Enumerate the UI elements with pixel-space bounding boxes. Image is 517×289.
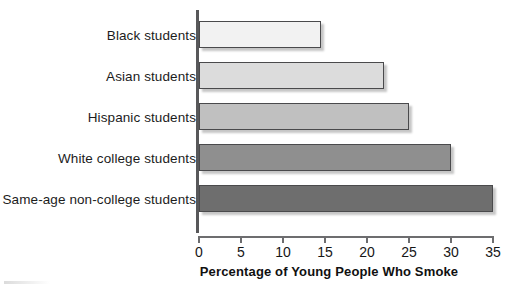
bar-chart: Black students Asian students Hispanic s… (0, 0, 517, 289)
x-axis-title: Percentage of Young People Who Smoke (0, 264, 517, 279)
bar-hispanic-students (199, 103, 409, 130)
bar-black-students (199, 21, 321, 48)
x-axis-tick-label: 20 (359, 244, 375, 260)
x-axis-tick (282, 236, 284, 243)
x-axis-tick-label: 35 (485, 244, 501, 260)
plot-area (199, 10, 493, 233)
x-axis-tick-label: 0 (195, 244, 203, 260)
x-axis-tick (366, 236, 368, 243)
category-label-black-students: Black students (107, 28, 196, 44)
x-axis-line (199, 236, 492, 238)
category-label-asian-students: Asian students (106, 69, 196, 85)
x-axis-tick (198, 236, 200, 243)
scan-artifact (4, 281, 50, 284)
category-label-same-age-non-college-students: Same-age non-college students (2, 192, 196, 208)
x-axis-tick-label: 25 (401, 244, 417, 260)
x-axis-tick-label: 10 (275, 244, 291, 260)
x-axis-tick-label: 15 (317, 244, 333, 260)
bar-white-college-students (199, 144, 451, 171)
category-label-hispanic-students: Hispanic students (88, 110, 196, 126)
x-axis-title-text: Percentage of Young People Who Smoke (200, 264, 458, 279)
x-axis-tick (450, 236, 452, 243)
x-axis-tick-label: 5 (237, 244, 245, 260)
x-axis-tick (492, 236, 494, 243)
x-axis-tick-label: 30 (443, 244, 459, 260)
category-label-white-college-students: White college students (58, 151, 196, 167)
x-axis-tick (240, 236, 242, 243)
x-axis-tick (408, 236, 410, 243)
bar-asian-students (199, 62, 384, 89)
bar-same-age-non-college-students (199, 185, 493, 212)
x-axis-tick (324, 236, 326, 243)
